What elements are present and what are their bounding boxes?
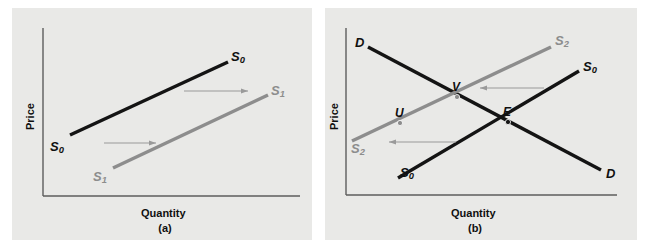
panel-caption-b: (b) bbox=[451, 223, 499, 234]
shift-arrow-lower-head-b bbox=[389, 139, 396, 144]
panel-caption-a: (a) bbox=[141, 223, 189, 234]
supply-shift-figure: S0 S0 S1 S1 D D S0 S0 S2 S2 U V E Price … bbox=[0, 0, 647, 247]
curve-label-s0-left-a: S0 bbox=[50, 140, 64, 155]
subscript: 0 bbox=[409, 171, 414, 181]
curve-label-s0-left-b: S0 bbox=[400, 166, 414, 181]
point-U-dot bbox=[397, 120, 402, 125]
curve-label-s2-right-b: S2 bbox=[555, 34, 569, 49]
point-V-dot bbox=[454, 94, 459, 99]
curve-s0-b bbox=[398, 71, 579, 178]
figure-vector-layer bbox=[0, 0, 647, 247]
curve-label-s2-left-b: S2 bbox=[351, 142, 365, 157]
curve-label-d-top-b: D bbox=[355, 36, 364, 49]
subscript: 1 bbox=[280, 89, 285, 99]
subscript: 2 bbox=[360, 147, 365, 157]
curve-label-d-bottom-b: D bbox=[606, 167, 615, 180]
point-E-dot bbox=[505, 119, 510, 124]
shift-arrow-lower-head-a bbox=[149, 140, 156, 145]
x-axis-title-a: Quantity bbox=[141, 208, 186, 219]
curve-label-s0-right-b: S0 bbox=[583, 60, 597, 75]
subscript: 2 bbox=[564, 39, 569, 49]
subscript: 0 bbox=[59, 145, 64, 155]
shift-arrow-upper-head-b bbox=[480, 85, 487, 90]
subscript: 1 bbox=[102, 175, 107, 185]
subscript: 0 bbox=[592, 65, 597, 75]
curve-label-s1-left-a: S1 bbox=[93, 170, 107, 185]
curve-label-s1-right-a: S1 bbox=[271, 84, 285, 99]
curve-label-s0-right-a: S0 bbox=[231, 50, 245, 65]
shift-arrow-upper-head-a bbox=[241, 88, 248, 93]
point-label-u: U bbox=[395, 107, 404, 119]
subscript: 0 bbox=[240, 55, 245, 65]
y-axis-title-b: Price bbox=[329, 103, 340, 130]
point-label-v: V bbox=[452, 81, 460, 93]
point-label-e: E bbox=[503, 106, 511, 118]
y-axis-title-a: Price bbox=[25, 103, 36, 130]
x-axis-title-b: Quantity bbox=[451, 208, 496, 219]
